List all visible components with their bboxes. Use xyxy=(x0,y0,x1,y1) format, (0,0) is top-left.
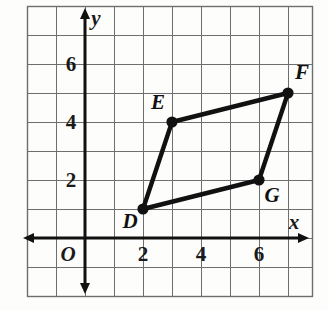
vertex-point-G xyxy=(253,174,264,185)
y-tick-label-4: 4 xyxy=(66,110,77,134)
coordinate-plot-svg: 246246 y x O DEFG xyxy=(0,0,328,310)
vertex-point-F xyxy=(282,87,293,98)
coordinate-plane-figure: 246246 y x O DEFG xyxy=(0,0,328,310)
vertex-label-F: F xyxy=(294,60,309,84)
y-tick-label-2: 2 xyxy=(66,168,77,192)
origin-label: O xyxy=(60,242,75,266)
vertex-label-E: E xyxy=(150,90,165,114)
figure-background xyxy=(0,0,328,310)
x-tick-label-2: 2 xyxy=(138,242,149,266)
x-tick-label-6: 6 xyxy=(254,242,265,266)
vertex-label-G: G xyxy=(264,183,279,207)
vertex-label-D: D xyxy=(121,209,137,233)
x-axis-label: x xyxy=(288,210,300,234)
vertex-point-D xyxy=(137,203,148,214)
vertex-point-E xyxy=(166,116,177,127)
x-tick-label-4: 4 xyxy=(196,242,207,266)
y-tick-label-6: 6 xyxy=(66,52,77,76)
